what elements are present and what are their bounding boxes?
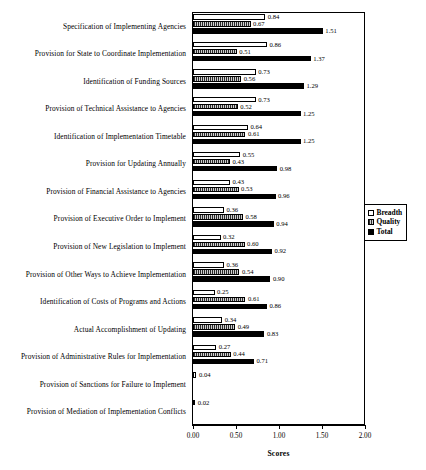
bar-quality[interactable] [193, 324, 235, 329]
bar-quality[interactable] [193, 159, 230, 164]
bar-total[interactable] [193, 331, 264, 336]
legend-item-quality[interactable]: Quality [368, 218, 402, 226]
bar-quality[interactable] [193, 352, 231, 357]
bar-value-label: 1.29 [305, 83, 318, 90]
bar-value-label: 0.02 [196, 399, 209, 406]
category-label: Provision of Financial Assistance to Age… [46, 186, 186, 195]
bar-quality[interactable] [193, 76, 241, 81]
chart-row: Provision of Sanctions for Failure to Im… [0, 370, 426, 398]
category-label: Provision of Mediation of Implementation… [27, 407, 186, 416]
bar-total[interactable] [193, 249, 272, 254]
bar-value-label: 0.43 [231, 158, 244, 165]
bar-total[interactable] [193, 56, 311, 61]
bar-value-label: 0.92 [273, 248, 286, 255]
x-tick-label: 2.00 [359, 432, 372, 440]
bar-value-label: 0.36 [225, 207, 238, 214]
bar-value-label: 0.73 [257, 96, 270, 103]
bar-value-label: 1.25 [302, 110, 315, 117]
bar-breadth[interactable] [193, 235, 221, 240]
bar-value-label: 1.25 [302, 138, 315, 145]
bar-quality[interactable] [193, 49, 237, 54]
bar-breadth[interactable] [193, 290, 215, 295]
bar-value-label: 0.71 [255, 358, 268, 365]
bar-breadth[interactable] [193, 400, 195, 405]
chart-row: Identification of Costs of Programs and … [0, 287, 426, 315]
bar-value-label: 0.54 [240, 269, 253, 276]
x-tick-label: 1.00 [273, 432, 286, 440]
bar-quality[interactable] [193, 269, 239, 274]
x-tick-label: 1.50 [316, 432, 329, 440]
bar-value-label: 0.58 [244, 214, 257, 221]
bar-breadth[interactable] [193, 180, 230, 185]
bar-breadth[interactable] [193, 125, 248, 130]
bar-total[interactable] [193, 166, 277, 171]
bar-quality[interactable] [193, 104, 238, 109]
bar-total[interactable] [193, 139, 301, 144]
chart-row: Specification of Implementing Agencies0.… [0, 12, 426, 40]
bar-value-label: 0.44 [232, 351, 245, 358]
bar-value-label: 1.51 [324, 28, 337, 35]
bar-value-label: 0.25 [216, 289, 229, 296]
bar-total[interactable] [193, 28, 323, 33]
bar-value-label: 0.53 [240, 186, 253, 193]
bar-total[interactable] [193, 221, 274, 226]
bar-value-label: 0.51 [238, 48, 251, 55]
bar-value-label: 0.04 [197, 372, 210, 379]
bar-quality[interactable] [193, 242, 245, 247]
bar-breadth[interactable] [193, 262, 224, 267]
category-label: Provision for Updating Annually [86, 159, 186, 168]
chart-row: Provision of Technical Assistance to Age… [0, 95, 426, 123]
legend-label-breadth: Breadth [377, 209, 403, 217]
row-bars: 0.02 [193, 397, 365, 425]
bar-total[interactable] [193, 111, 301, 116]
bar-total[interactable] [193, 276, 270, 281]
row-bars: 0.320.600.92 [193, 232, 365, 260]
legend-item-total[interactable]: Total [368, 228, 402, 236]
row-bars: 0.360.580.94 [193, 205, 365, 233]
bar-value-label: 0.60 [246, 241, 259, 248]
bar-breadth[interactable] [193, 42, 267, 47]
bar-value-label: 0.34 [223, 317, 236, 324]
legend-label-quality: Quality [377, 218, 401, 226]
bar-breadth[interactable] [193, 207, 224, 212]
bar-total[interactable] [193, 359, 254, 364]
bar-quality[interactable] [193, 187, 239, 192]
legend-swatch-total-icon [368, 229, 374, 235]
chart-row: Actual Accomplishment of Updating0.340.4… [0, 315, 426, 343]
category-label: Provision of Executive Order to Implemen… [54, 214, 186, 223]
bar-quality[interactable] [193, 214, 243, 219]
bar-value-label: 0.96 [277, 193, 290, 200]
category-label: Identification of Costs of Programs and … [40, 297, 186, 306]
bar-breadth[interactable] [193, 345, 216, 350]
bar-breadth[interactable] [193, 372, 196, 377]
row-bars: 0.04 [193, 370, 365, 398]
chart-row: Provision of Administrative Rules for Im… [0, 342, 426, 370]
bar-quality[interactable] [193, 132, 245, 137]
chart-row: Provision of Mediation of Implementation… [0, 397, 426, 425]
chart-row: Provision for Updating Annually0.550.430… [0, 150, 426, 178]
row-bars: 0.270.440.71 [193, 342, 365, 370]
legend-item-breadth[interactable]: Breadth [368, 209, 402, 217]
row-bars: 0.840.671.51 [193, 12, 365, 40]
chart-row: Provision of New Legislation to Implemen… [0, 232, 426, 260]
bar-breadth[interactable] [193, 317, 222, 322]
category-label: Provision of Other Ways to Achieve Imple… [26, 269, 186, 278]
bar-total[interactable] [193, 83, 304, 88]
category-label: Actual Accomplishment of Updating [74, 324, 186, 333]
bar-total[interactable] [193, 304, 267, 309]
bar-value-label: 0.61 [246, 131, 259, 138]
legend-label-total: Total [377, 228, 393, 236]
bar-chart: Specification of Implementing Agencies0.… [0, 0, 426, 470]
row-bars: 0.550.430.98 [193, 150, 365, 178]
category-label: Identification of Funding Sources [83, 76, 186, 85]
bar-value-label: 0.86 [268, 303, 281, 310]
bar-quality[interactable] [193, 21, 251, 26]
bar-total[interactable] [193, 194, 276, 199]
bar-quality[interactable] [193, 297, 245, 302]
chart-row: Identification of Implementation Timetab… [0, 122, 426, 150]
row-bars: 0.860.511.37 [193, 40, 365, 68]
chart-row: Provision of Other Ways to Achieve Imple… [0, 260, 426, 288]
category-label: Provision of Technical Assistance to Age… [45, 104, 186, 113]
category-label: Provision for State to Coordinate Implem… [35, 49, 186, 58]
category-label: Provision of Sanctions for Failure to Im… [40, 379, 186, 388]
